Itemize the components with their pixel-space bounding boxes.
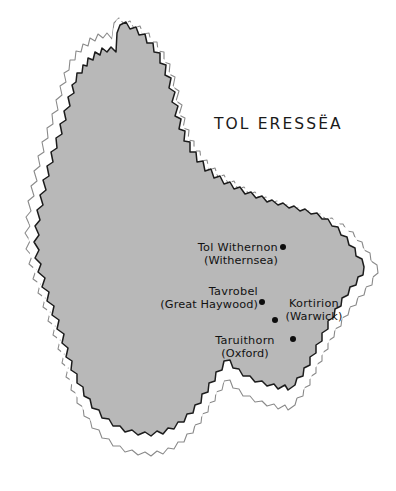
island-coastline-graphic [0,0,396,491]
coastline-group [25,18,378,456]
map-canvas: TOL ERESSËA Tol Withernon (Withernsea) T… [0,0,396,491]
